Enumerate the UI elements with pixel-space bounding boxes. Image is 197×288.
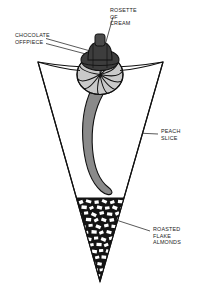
roasted-flake-almonds (61, 198, 139, 280)
chocolate-stick (95, 34, 105, 46)
label-roasted-flake-almonds: ROASTED FLAKE ALMONDS (153, 226, 182, 245)
label-peach-slice: PEACH SLICE (161, 128, 182, 141)
almonds-mass (61, 198, 139, 280)
leader-roasted-flake-almonds (113, 219, 150, 231)
label-rosette-of-cream: ROSETTE OF CREAM (110, 7, 138, 26)
diagram-root: CHOCOLATE OFFPIECE ROSETTE OF CREAM PEAC… (0, 0, 197, 288)
label-chocolate-offpiece: CHOCOLATE OFFPIECE (15, 32, 51, 45)
chocolate-offpiece (81, 34, 119, 71)
cone-dessert-diagram: CHOCOLATE OFFPIECE ROSETTE OF CREAM PEAC… (0, 0, 197, 288)
